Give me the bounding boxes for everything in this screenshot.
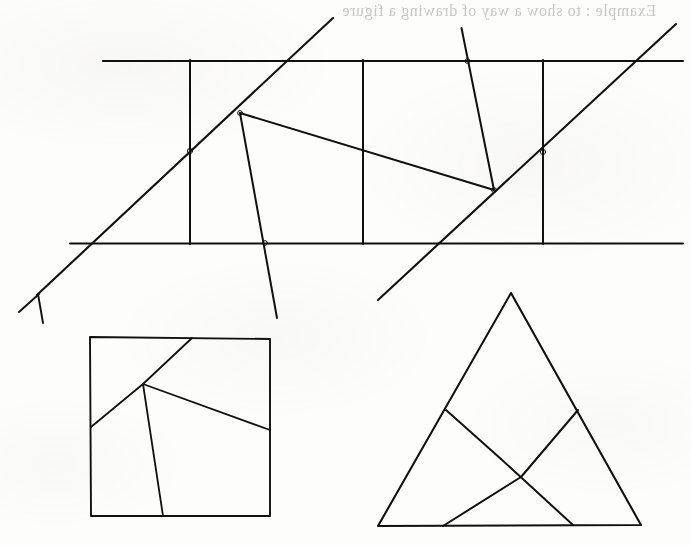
arrowhead-icon <box>19 294 43 323</box>
arrowhead-barb-left <box>19 294 39 312</box>
triangle-seg-center-to-base-right <box>501 459 573 525</box>
square-seg-to-top-edge <box>143 338 192 384</box>
subdivided-triangle-figure <box>378 293 641 526</box>
subdivided-square-figure <box>90 337 270 516</box>
square-seg-to-right-edge <box>143 384 270 430</box>
square-seg-to-left-edge <box>91 384 143 427</box>
diagonal-transversal-left <box>37 18 333 295</box>
diagonal-transversal-right <box>378 24 676 300</box>
square-interior-segments <box>91 338 270 516</box>
ladder-figure <box>19 18 683 323</box>
scanned-page: Example : to show a way of drawing a fig… <box>0 0 691 545</box>
square-outline <box>90 337 270 516</box>
geometry-figure-canvas <box>0 0 691 545</box>
triangle-seg-right-side-to-center <box>521 410 578 477</box>
triangle-interior-segments <box>443 410 578 526</box>
triangle-seg-left-side-to-center <box>446 410 501 459</box>
chord-apex-to-right-node <box>240 113 494 190</box>
parallel-horizontal-lines <box>70 61 683 244</box>
oblique-steep-line <box>462 28 495 190</box>
triangle-outline <box>378 293 641 526</box>
arrowhead-barb-right <box>38 294 43 323</box>
chord-apex-to-lower-tail <box>240 113 277 318</box>
square-seg-to-bottom-edge <box>143 384 163 516</box>
triangle-seg-center-to-base-left <box>443 477 521 526</box>
